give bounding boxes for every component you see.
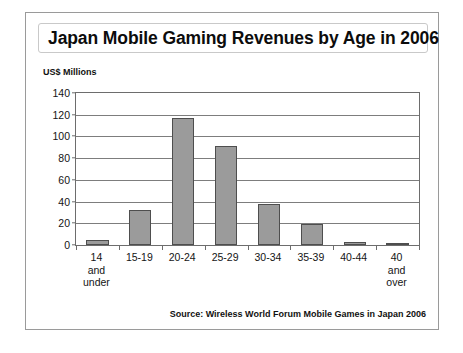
x-tick-mark	[119, 245, 120, 250]
x-axis-label-line: 14	[75, 251, 118, 264]
x-axis-labels: 14andunder15-1920-2425-2930-3435-3940-44…	[75, 251, 418, 289]
y-tick-label: 20	[58, 217, 70, 229]
x-axis-label-line: 15-19	[118, 251, 161, 264]
x-axis-label-line: 20-24	[161, 251, 204, 264]
bar-slot	[333, 93, 376, 245]
y-tick-label: 120	[52, 109, 70, 121]
source-note: Source: Wireless World Forum Mobile Game…	[170, 309, 426, 319]
bar-slot	[162, 93, 205, 245]
x-axis-label: 25-29	[204, 251, 247, 289]
x-axis-ticks	[76, 245, 419, 250]
bar[interactable]	[258, 204, 280, 245]
x-axis-label-line: 25-29	[204, 251, 247, 264]
x-axis-label-line: 30-34	[247, 251, 290, 264]
x-tick-mark	[290, 245, 291, 250]
page-title: Japan Mobile Gaming Revenues by Age in 2…	[38, 23, 428, 53]
x-axis-label-line: and	[75, 264, 118, 277]
bar[interactable]	[215, 146, 237, 245]
y-tick-label: 80	[58, 152, 70, 164]
bar-slot	[248, 93, 291, 245]
x-axis-label-line: and	[375, 264, 418, 277]
y-axis-title: US$ Millions	[43, 67, 97, 77]
x-axis-label-line: over	[375, 276, 418, 289]
x-axis-label: 14andunder	[75, 251, 118, 289]
x-axis-label: 30-34	[247, 251, 290, 289]
x-axis-label-line: 40	[375, 251, 418, 264]
y-tick-label: 140	[52, 87, 70, 99]
x-tick-mark	[419, 245, 420, 250]
bar[interactable]	[129, 210, 151, 245]
x-axis-label: 20-24	[161, 251, 204, 289]
slide-frame: Japan Mobile Gaming Revenues by Age in 2…	[25, 12, 439, 330]
x-tick-mark	[248, 245, 249, 250]
y-tick-label: 60	[58, 174, 70, 186]
x-tick-mark	[376, 245, 377, 250]
bar[interactable]	[172, 118, 194, 245]
bar-slot	[205, 93, 248, 245]
x-axis-label-line: 35-39	[289, 251, 332, 264]
x-axis-label: 40-44	[332, 251, 375, 289]
bar-slot	[119, 93, 162, 245]
bar-slot	[290, 93, 333, 245]
x-axis-label: 40andover	[375, 251, 418, 289]
x-axis-label: 15-19	[118, 251, 161, 289]
x-tick-mark	[76, 245, 77, 250]
bar-slot	[76, 93, 119, 245]
x-tick-mark	[205, 245, 206, 250]
x-tick-mark	[162, 245, 163, 250]
y-tick-label: 40	[58, 196, 70, 208]
x-axis-label-line: under	[75, 276, 118, 289]
y-tick-label: 100	[52, 130, 70, 142]
y-tick-label: 0	[64, 239, 70, 251]
bar-slot	[376, 93, 419, 245]
chart-plot-area: 020406080100120140	[75, 92, 420, 246]
bars-layer	[76, 93, 419, 245]
bar[interactable]	[301, 224, 323, 245]
x-tick-mark	[333, 245, 334, 250]
x-axis-label-line: 40-44	[332, 251, 375, 264]
x-axis-label: 35-39	[289, 251, 332, 289]
